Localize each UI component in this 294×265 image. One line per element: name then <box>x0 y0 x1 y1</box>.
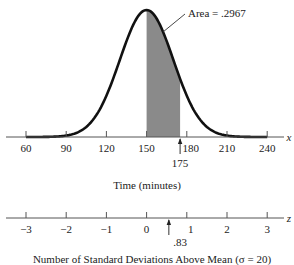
z-tick-label: 0 <box>144 224 150 235</box>
x-tick-label: 150 <box>138 143 155 154</box>
x-tick-label: 210 <box>219 143 236 154</box>
area-annotation: Area = .2967 <box>188 8 246 19</box>
x-variable-label: x <box>287 132 292 143</box>
x-tick-label: 120 <box>98 143 115 154</box>
x-tick-label: 60 <box>21 143 32 154</box>
z-tick-label: 3 <box>264 224 270 235</box>
z-variable-label: z <box>287 213 291 224</box>
z-axis-title: Number of Standard Deviations Above Mean… <box>33 254 271 265</box>
z-tick-label: −1 <box>101 224 113 235</box>
x-tick-label: 90 <box>61 143 72 154</box>
x-tick-label: 240 <box>259 143 276 154</box>
z-tick-label: 2 <box>224 224 230 235</box>
x-axis-title: Time (minutes) <box>113 180 181 191</box>
z-tick-label: −3 <box>20 224 32 235</box>
leader-line <box>163 14 185 32</box>
z-tick-label: 1 <box>188 224 194 235</box>
x-marker-label: 175 <box>172 158 189 169</box>
x-tick-label: 180 <box>183 143 200 154</box>
z-marker-label: .83 <box>173 237 187 248</box>
shaded-area <box>147 10 181 137</box>
z-tick-label: −2 <box>60 224 72 235</box>
